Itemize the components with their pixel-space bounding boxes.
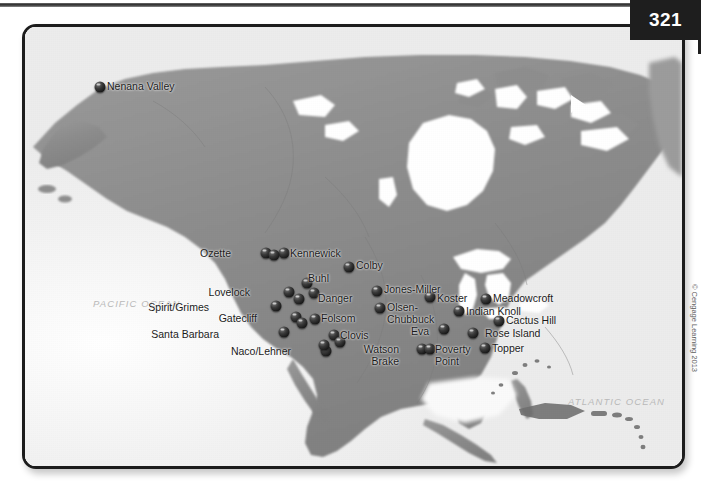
site-label-gatecliff: Gatecliff [219,313,257,325]
site-label-lovelock: Lovelock [209,287,250,299]
site-label-eva: Eva [411,326,429,338]
site-label-nenana-valley: Nenana Valley [107,81,175,93]
site-marker-eva[interactable] [439,324,450,335]
page-number-badge: 321 [630,0,701,40]
site-marker-poverty-point[interactable] [425,344,436,355]
site-marker-lovelock[interactable] [284,287,295,298]
site-label-jones-miller: Jones-Miller [384,284,441,296]
site-label-watson-brake: Watson Brake [364,344,399,367]
site-label-rose-island: Rose Island [485,328,540,340]
marker-ozette-2[interactable] [269,250,280,261]
site-marker-meadowcroft[interactable] [481,294,492,305]
site-label-koster: Koster [437,293,467,305]
site-label-spirit-grimes: Spirit/Grimes [148,302,209,314]
site-marker-colby[interactable] [344,262,355,273]
site-label-naco-lehner: Naco/Lehner [231,346,291,358]
site-marker-rose-island[interactable] [468,328,479,339]
site-label-clovis: Clovis [340,330,369,342]
site-label-topper: Topper [492,343,524,355]
site-label-ozette: Ozette [200,248,231,260]
site-label-danger: Danger [318,293,352,305]
atlantic-ocean-label: ATLANTIC OCEAN [568,396,665,407]
site-label-folsom: Folsom [321,313,355,325]
site-marker-olsen-chubbuck[interactable] [375,303,386,314]
site-label-santa-barbara: Santa Barbara [151,329,219,341]
site-marker-kennewick[interactable] [279,248,290,259]
marker-clovis-2[interactable] [319,340,330,351]
site-label-colby: Colby [356,260,383,272]
site-label-meadowcroft: Meadowcroft [493,293,553,305]
site-marker-nenana-valley[interactable] [95,82,106,93]
marker-danger-2[interactable] [294,294,305,305]
site-marker-indian-knoll[interactable] [454,306,465,317]
site-marker-santa-barbara[interactable] [279,327,290,338]
top-rule [0,3,701,7]
site-label-cactus-hill: Cactus Hill [506,315,556,327]
site-label-olsen-chubbuck: Olsen- Chubbuck [387,302,434,325]
site-label-poverty-point: Poverty Point [435,344,471,367]
site-marker-spirit-grimes[interactable] [271,301,282,312]
map-figure: PACIFIC OCEAN ATLANTIC OCEAN Nenana Vall… [22,24,685,469]
site-label-kennewick: Kennewick [290,248,341,260]
marker-gatecliff-2[interactable] [297,318,308,329]
copyright-notice: © Cengage Learning 2013 [690,284,699,372]
site-marker-jones-miller[interactable] [372,286,383,297]
site-marker-folsom[interactable] [310,314,321,325]
site-label-buhl: Buhl [308,273,329,285]
site-marker-topper[interactable] [480,343,491,354]
